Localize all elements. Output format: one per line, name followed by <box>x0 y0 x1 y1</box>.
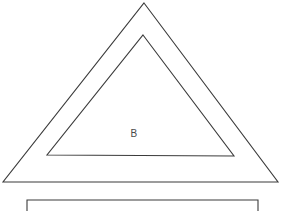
diagram-background <box>0 0 283 211</box>
figure-canvas: B <box>0 0 283 211</box>
region-label-b: B <box>131 128 138 139</box>
triangles-diagram: B <box>0 0 283 211</box>
